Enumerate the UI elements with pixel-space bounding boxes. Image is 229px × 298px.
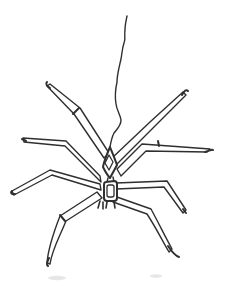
- spider-illustration: Ink line drawing of a spider hanging ups…: [0, 0, 229, 298]
- elbow-tick-right-middle: [158, 141, 159, 146]
- smudge-left: [48, 276, 66, 280]
- cephalothorax: [104, 181, 117, 201]
- spider-svg: Ink line drawing of a spider hanging ups…: [0, 0, 229, 298]
- smudge-right: [150, 274, 162, 278]
